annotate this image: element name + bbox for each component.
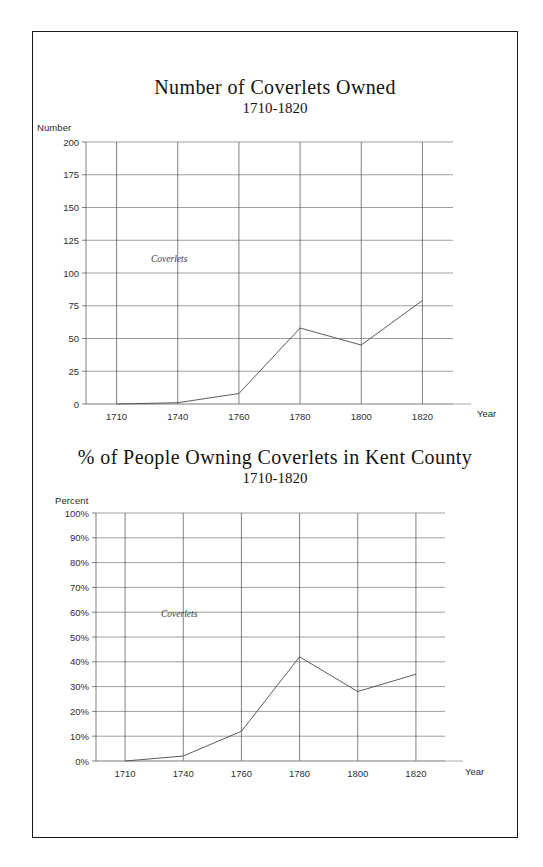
chart-percent-owning-coverlets: % of People Owning Coverlets in Kent Cou…: [33, 446, 517, 487]
page-border: Number of Coverlets Owned 1710-1820 Numb…: [32, 31, 518, 838]
x-tick-label: 1800: [347, 768, 368, 779]
x-tick-label: 1780: [289, 768, 310, 779]
x-tick-label: 1760: [228, 411, 249, 422]
x-tick-label: 1710: [115, 768, 136, 779]
y-tick-label: 10%: [70, 731, 90, 742]
x-tick-label: 1760: [231, 768, 252, 779]
chart-1-plot-area: 0255075100125150175200171017401760178018…: [33, 132, 519, 422]
y-tick-label: 70%: [70, 582, 90, 593]
x-tick-label: 1780: [290, 411, 311, 422]
y-tick-label: 30%: [70, 681, 90, 692]
chart-1-subtitle: 1710-1820: [33, 100, 517, 117]
x-tick-label: 1820: [412, 411, 433, 422]
y-tick-label: 175: [63, 169, 79, 180]
y-tick-label: 80%: [70, 557, 90, 568]
chart-2-plot-area: 0%10%20%30%40%50%60%70%80%90%100%1710174…: [33, 505, 519, 785]
y-tick-label: 100%: [65, 508, 90, 519]
y-tick-label: 40%: [70, 656, 90, 667]
y-tick-label: 60%: [70, 607, 90, 618]
chart-2-title: % of People Owning Coverlets in Kent Cou…: [33, 446, 517, 469]
y-tick-label: 0%: [75, 756, 89, 767]
y-tick-label: 0: [74, 399, 79, 410]
y-tick-label: 200: [63, 137, 79, 148]
y-tick-label: 20%: [70, 706, 90, 717]
x-tick-label: 1740: [173, 768, 194, 779]
chart-2-subtitle: 1710-1820: [33, 470, 517, 487]
series-line-coverlets: [125, 657, 416, 761]
y-tick-label: 50%: [70, 632, 90, 643]
series-inline-label: Coverlets: [161, 609, 198, 619]
y-tick-label: 25: [68, 366, 79, 377]
x-tick-label: 1710: [106, 411, 127, 422]
y-tick-label: 90%: [70, 532, 90, 543]
series-inline-label: Coverlets: [151, 254, 188, 264]
y-tick-label: 75: [68, 300, 79, 311]
chart-number-of-coverlets-owned: Number of Coverlets Owned 1710-1820: [33, 76, 517, 117]
chart-2-svg: 0%10%20%30%40%50%60%70%80%90%100%1710174…: [33, 505, 519, 785]
y-tick-label: 50: [68, 333, 79, 344]
x-tick-label: 1820: [405, 768, 426, 779]
y-tick-label: 100: [63, 268, 79, 279]
chart-1-title: Number of Coverlets Owned: [33, 76, 517, 99]
x-tick-label: 1800: [351, 411, 372, 422]
series-line-coverlets: [117, 301, 423, 404]
chart-1-svg: 0255075100125150175200171017401760178018…: [33, 132, 519, 422]
y-tick-label: 125: [63, 235, 79, 246]
x-tick-label: 1740: [167, 411, 188, 422]
y-tick-label: 150: [63, 202, 79, 213]
